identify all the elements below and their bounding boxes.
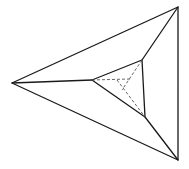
outer-triangle — [12, 7, 178, 160]
nested-triangle-diagram — [0, 0, 189, 169]
hidden-dashed-edges — [92, 60, 145, 117]
dashed-edge — [117, 80, 145, 117]
connecting-edges — [12, 7, 178, 160]
connecting-edge — [145, 117, 178, 160]
dashed-edge — [92, 79, 130, 80]
connecting-edge — [12, 80, 92, 83]
inner-triangle — [92, 60, 145, 117]
